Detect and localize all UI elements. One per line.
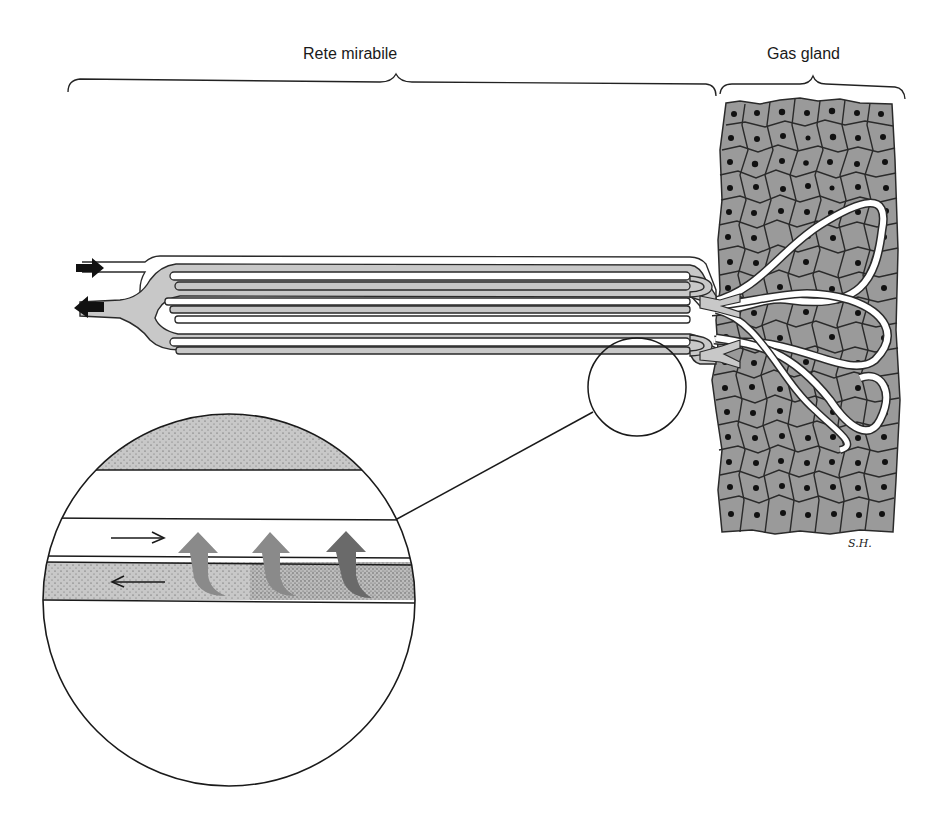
rete-mirabile-bundle <box>80 256 740 368</box>
rete-mirabile-brace <box>68 74 716 96</box>
gas-gland-brace <box>720 76 905 99</box>
magnifier-connector-line <box>386 412 593 525</box>
magnified-detail-view <box>40 410 420 786</box>
inflow-arrow-icon <box>76 258 104 278</box>
diagram-canvas <box>0 0 950 816</box>
